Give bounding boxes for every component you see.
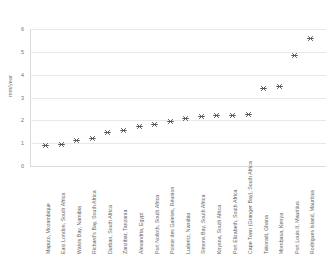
x-tick-label: Knysna, South Africa [217,205,223,254]
gridline-1 [30,143,326,144]
y-tick-label: 0 [0,163,24,169]
y-tick-label: 2 [0,117,24,123]
data-point [167,118,174,125]
x-tick-label: Takoradi, Ghana [264,215,270,254]
x-tick-label: Zanzibar, Tanzania [123,210,129,254]
data-point [58,141,65,148]
y-tick-label: 5 [0,49,24,55]
data-point [104,129,111,136]
y-tick-label: 6 [0,26,24,32]
x-tick-label: Luderitz, Namibia [186,213,192,254]
x-tick-label: Port Nolloth, South Africa [155,195,161,254]
y-axis-title: mm/year [7,75,13,97]
gridline-2 [30,120,326,121]
x-tick-label: Richard's Bay, South Africa [92,190,98,254]
x-tick-label: Rodrigues Island, Mauritius [310,190,316,254]
x-tick-label: Durban, South Africa [108,205,114,254]
gridline-5 [30,52,326,53]
gridline-6 [30,29,326,30]
gridline-0 [30,166,326,167]
x-tick-label: Pointe des Galetes, Réunion [170,187,176,254]
data-point [260,85,267,92]
x-tick-label: Mombasa, Kenya [279,213,285,254]
data-point [245,111,252,118]
data-point [136,123,143,130]
gridline-3 [30,98,326,99]
x-tick-label: Port Louis II, Mauritius [295,201,301,254]
data-point [229,112,236,119]
x-tick-label: Cape Town (Granger Bay), South Africa [248,161,254,254]
scatter-chart: 0123456 mm/year Maputo, MozambiqueEast L… [0,0,332,257]
x-tick-label: Walvis Bay, Namibia [77,206,83,254]
x-tick-label: East London, South Africa [61,193,67,254]
x-tick-label: Maputo, Mozambique [46,203,52,254]
x-tick-label: Port Elizabeth, South Africa [233,189,239,254]
data-point [307,35,314,42]
gridline-4 [30,75,326,76]
data-point [151,121,158,128]
data-point [89,135,96,142]
data-point [276,83,283,90]
data-point [213,112,220,119]
data-point [120,127,127,134]
y-tick-label: 1 [0,140,24,146]
x-tick-label: Simons Bay, South Africa [201,195,207,254]
plot-area [30,29,326,166]
x-axis-labels: Maputo, MozambiqueEast London, South Afr… [30,168,326,256]
x-tick-label: Alexandria, Egypt [139,212,145,254]
